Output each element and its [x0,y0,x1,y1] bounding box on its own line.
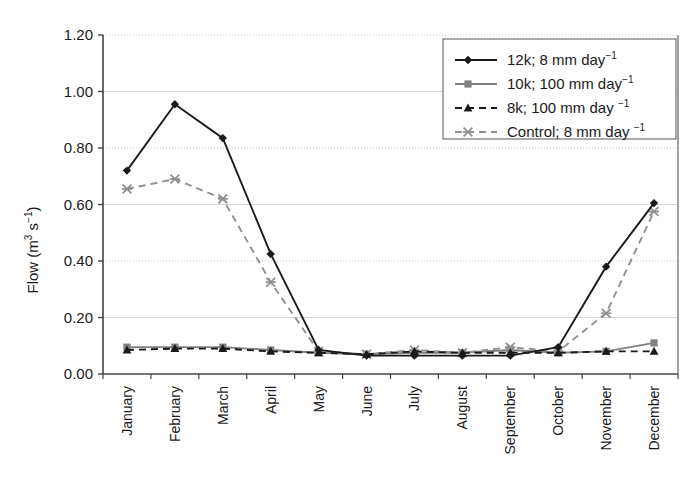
y-tick-label: 0.20 [64,309,93,326]
chart-legend: 12k; 8 mm day−110k; 100 mm day−18k; 100 … [443,39,676,140]
y-tick-label: 0.00 [64,365,93,382]
x-axis-label-may: May [311,386,327,412]
chart-figure: 0.000.200.400.600.801.001.20 JanuaryFebr… [0,0,695,495]
y-tick-label: 0.80 [64,139,93,156]
x-axis-label-april: April [263,386,279,414]
x-axis-label-february: February [167,386,183,442]
y-tick-label: 0.40 [64,252,93,269]
y-tick-label: 0.60 [64,196,93,213]
x-axis-label-march: March [215,386,231,425]
x-axis-label-january: January [119,386,135,436]
x-axis-label-june: June [359,386,375,417]
legend-label-3: Control; 8 mm day −1 [507,122,646,140]
y-axis-title-tail: ) [24,207,41,212]
x-axis-label-december: December [646,386,662,451]
legend-label-1: 10k; 100 mm day−1 [507,74,634,92]
x-axis-label-october: October [550,386,566,436]
y-axis-title-exp2: −1 [23,211,34,223]
y-axis-ticks: 0.000.200.400.600.801.001.20 [64,26,103,382]
legend-label-2: 8k; 100 mm day −1 [507,98,630,116]
x-axis-label-september: September [502,386,518,455]
x-axis-label-august: August [454,386,470,430]
y-tick-label: 1.00 [64,83,93,100]
y-tick-label: 1.20 [64,26,93,43]
legend-label-0: 12k; 8 mm day−1 [507,50,617,68]
y-axis-title: Flow (m3 s−1) [23,207,41,294]
y-axis-title-mid: s [24,223,41,235]
x-axis-label-july: July [406,386,422,411]
x-axis-labels: JanuaryFebruaryMarchAprilMayJuneJulyAugu… [119,386,662,455]
x-axis-label-november: November [598,386,614,451]
line-chart: 0.000.200.400.600.801.001.20 JanuaryFebr… [0,0,695,495]
svg-text:Flow (m3 s−1): Flow (m3 s−1) [23,207,41,294]
legend-marker-1 [464,80,471,87]
data-point-marker [650,339,657,346]
y-axis-title-base: Flow (m [24,240,41,293]
